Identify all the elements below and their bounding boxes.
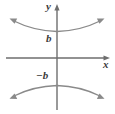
upper-left-arrow-icon xyxy=(10,18,18,23)
hyperbola-figure: y x b −b xyxy=(0,0,115,114)
x-axis-label: x xyxy=(103,59,109,70)
x-axis xyxy=(6,55,110,60)
graph-canvas xyxy=(0,0,115,114)
y-axis-label: y xyxy=(46,1,51,12)
y-axis-arrow-icon xyxy=(54,4,59,11)
positive-vertex-label: b xyxy=(46,33,52,44)
negative-vertex-label: −b xyxy=(36,70,48,81)
y-axis xyxy=(54,4,59,110)
upper-right-arrow-icon xyxy=(97,18,105,23)
